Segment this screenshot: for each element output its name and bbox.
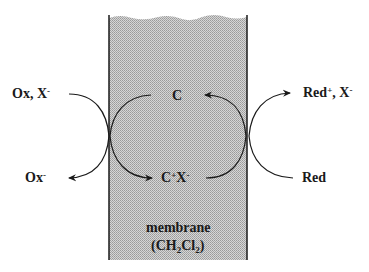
label-red-plus-x: Red+, X- xyxy=(303,85,352,101)
charge-superscript: - xyxy=(43,170,46,180)
formula-part: (CH xyxy=(151,238,177,253)
label-membrane: membrane xyxy=(146,220,211,236)
species-text: , X xyxy=(332,85,349,100)
species-text: C xyxy=(172,88,182,103)
formula-part: ) xyxy=(200,238,205,253)
species-text: Ox, X xyxy=(12,86,47,101)
species-text: C xyxy=(161,170,171,185)
charge-superscript: - xyxy=(349,85,352,95)
species-text: X xyxy=(176,170,186,185)
formula-part: Cl xyxy=(181,238,195,253)
label-carrier: C xyxy=(172,88,182,104)
charge-superscript: - xyxy=(186,170,189,180)
label-carrier-complex: C+X- xyxy=(161,170,189,186)
left-outer-arrow xyxy=(69,94,109,178)
species-text: Red xyxy=(303,85,327,100)
label-ox-minus: Ox- xyxy=(25,170,46,186)
right-outer-arrow xyxy=(249,93,293,178)
label-ox-x: Ox, X- xyxy=(12,86,50,102)
membrane-transport-diagram: Ox, X- Ox- C C+X- membrane (CH2Cl2) Red+… xyxy=(0,0,369,272)
label-solvent: (CH2Cl2) xyxy=(151,238,204,254)
species-text: Red xyxy=(302,170,326,185)
charge-superscript: - xyxy=(47,86,50,96)
membrane-text: membrane xyxy=(146,220,211,235)
label-red: Red xyxy=(302,170,326,186)
species-text: Ox xyxy=(25,170,43,185)
